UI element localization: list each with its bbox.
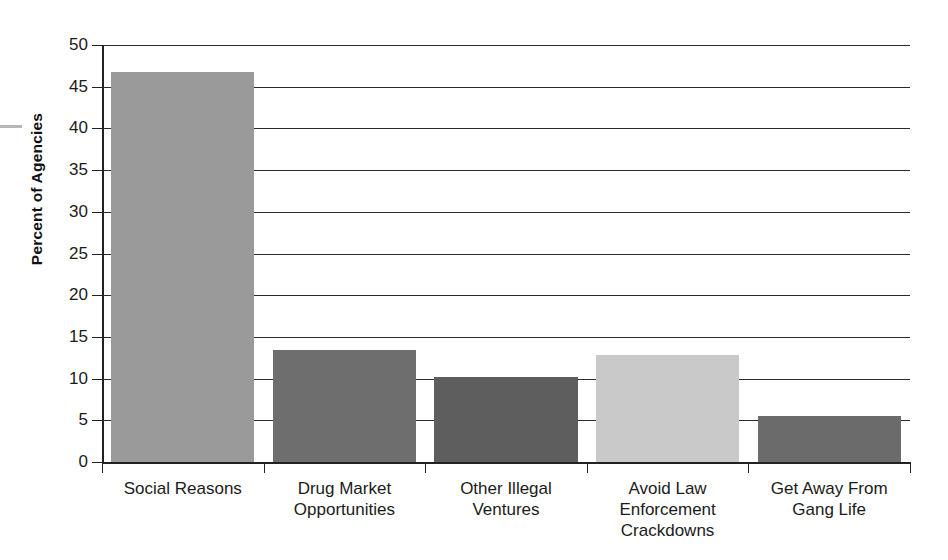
y-axis-tick-label: 40 — [54, 118, 88, 138]
x-axis-label-line: Opportunities — [294, 500, 395, 519]
y-axis-tick — [92, 87, 102, 88]
x-axis-tick — [910, 462, 911, 473]
gridline — [102, 45, 910, 46]
x-axis-tick — [587, 462, 588, 473]
x-axis-tick-label: Other IllegalVentures — [425, 478, 587, 520]
x-axis-label-line: Ventures — [472, 500, 539, 519]
y-axis-tick-label: 35 — [54, 160, 88, 180]
y-axis-title: Percent of Agencies — [28, 89, 46, 289]
y-axis-line — [102, 45, 104, 462]
y-axis-tick — [92, 170, 102, 171]
y-axis-tick-label: 10 — [54, 369, 88, 389]
x-axis-tick — [425, 462, 426, 473]
y-axis-tick-label: 30 — [54, 202, 88, 222]
scan-artifact-mark — [0, 125, 22, 128]
y-axis-tick-label: 15 — [54, 327, 88, 347]
y-axis-tick-label: 50 — [54, 35, 88, 55]
x-axis-tick-label: Avoid LawEnforcementCrackdowns — [587, 478, 749, 541]
y-axis-tick — [92, 420, 102, 421]
x-axis-tick — [102, 462, 103, 473]
y-axis-tick — [92, 295, 102, 296]
x-axis-label-line: Social Reasons — [124, 479, 242, 498]
x-axis-line — [102, 462, 910, 464]
bar — [111, 72, 254, 462]
x-axis-tick-label: Social Reasons — [102, 478, 264, 499]
bar — [596, 355, 739, 462]
y-axis-tick — [92, 212, 102, 213]
y-axis-tick-label: 20 — [54, 285, 88, 305]
y-axis-tick — [92, 337, 102, 338]
y-axis-tick — [92, 379, 102, 380]
x-axis-label-line: Enforcement — [619, 500, 715, 519]
y-axis-tick — [92, 128, 102, 129]
bar-chart: Percent of Agencies 05101520253035404550… — [0, 0, 948, 560]
x-axis-label-line: Crackdowns — [621, 521, 715, 540]
y-axis-tick — [92, 254, 102, 255]
y-axis-tick-label: 0 — [54, 452, 88, 472]
bar — [273, 350, 416, 462]
y-axis-tick-label: 45 — [54, 77, 88, 97]
y-axis-tick-label: 25 — [54, 244, 88, 264]
x-axis-tick-label: Drug MarketOpportunities — [264, 478, 426, 520]
x-axis-tick — [264, 462, 265, 473]
y-axis-tick — [92, 45, 102, 46]
x-axis-label-line: Gang Life — [792, 500, 866, 519]
x-axis-label-line: Drug Market — [298, 479, 392, 498]
bar — [434, 377, 577, 462]
y-axis-tick-label: 5 — [54, 410, 88, 430]
x-axis-tick-label: Get Away FromGang Life — [748, 478, 910, 520]
x-axis-label-line: Get Away From — [771, 479, 888, 498]
x-axis-label-line: Other Illegal — [460, 479, 552, 498]
x-axis-tick — [748, 462, 749, 473]
bar — [758, 416, 901, 462]
x-axis-label-line: Avoid Law — [629, 479, 707, 498]
y-axis-tick — [92, 462, 102, 463]
